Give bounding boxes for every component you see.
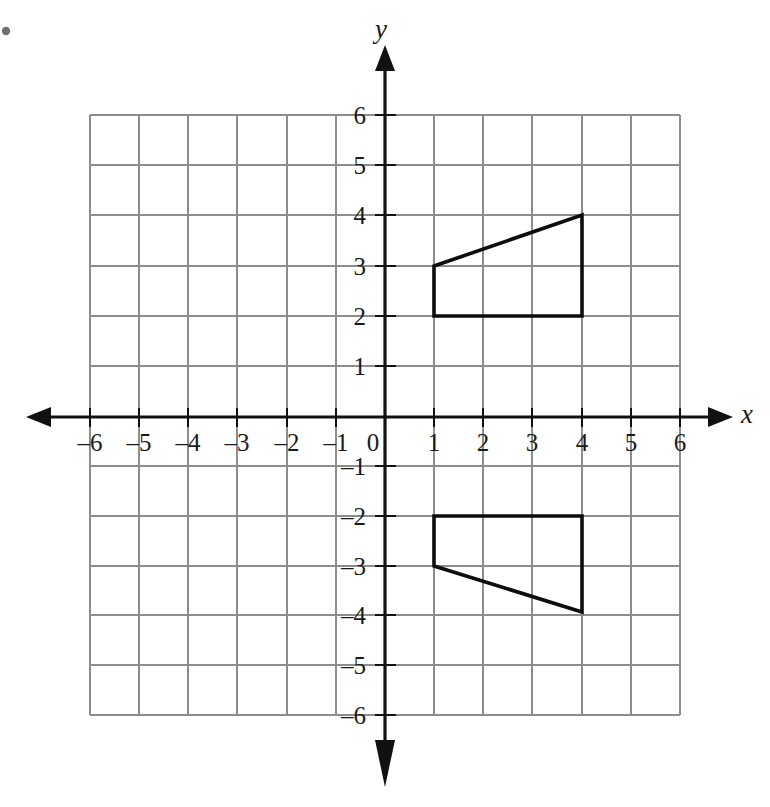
y-axis-arrow-up <box>375 45 395 71</box>
x-tick-label: 5 <box>625 429 638 456</box>
x-tick-label: 6 <box>674 429 687 456</box>
x-tick-label: –6 <box>77 429 103 456</box>
x-axis-tick-labels: –6 –5 –4 –3 –2 –1 1 2 3 4 5 6 <box>77 429 687 456</box>
y-tick-label: 4 <box>354 202 367 229</box>
y-tick-label: –6 <box>340 702 366 729</box>
y-axis-arrow-down <box>375 740 395 787</box>
origin-label: 0 <box>367 429 380 456</box>
x-tick-label: –5 <box>126 429 152 456</box>
x-tick-label: –3 <box>224 429 250 456</box>
x-tick-label: 4 <box>576 429 589 456</box>
y-tick-label: 3 <box>354 253 367 280</box>
y-tick-label: –2 <box>340 503 366 530</box>
coordinate-plane-figure: –6 –5 –4 –3 –2 –1 1 2 3 4 5 6 6 5 4 3 2 … <box>0 0 770 807</box>
x-axis-arrow-left <box>26 407 51 427</box>
x-tick-label: 3 <box>526 429 539 456</box>
lower-quadrilateral <box>434 516 582 612</box>
x-tick-label: –2 <box>274 429 300 456</box>
y-tick-label: 6 <box>354 102 367 129</box>
y-tick-label: –3 <box>340 553 366 580</box>
x-tick-label: 2 <box>477 429 490 456</box>
coordinate-plane-svg: –6 –5 –4 –3 –2 –1 1 2 3 4 5 6 6 5 4 3 2 … <box>0 0 770 807</box>
x-tick-label: –4 <box>175 429 202 456</box>
x-tick-label: 1 <box>428 429 441 456</box>
x-axis-arrow-right <box>708 407 733 427</box>
y-tick-label: –5 <box>340 652 366 679</box>
scan-speck <box>2 27 10 35</box>
y-tick-label: 2 <box>354 303 367 330</box>
x-axis-label: x <box>740 399 753 429</box>
y-tick-label: 1 <box>354 353 367 380</box>
x-tick-label: –1 <box>323 429 349 456</box>
y-axis-label: y <box>372 14 387 44</box>
y-tick-label: –1 <box>340 453 366 480</box>
x-axis <box>26 407 733 427</box>
y-tick-label: 5 <box>354 152 367 179</box>
y-tick-label: –4 <box>340 602 367 629</box>
